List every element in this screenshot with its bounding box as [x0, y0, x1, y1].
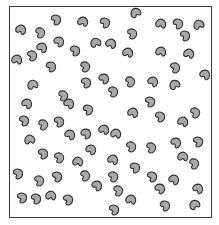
bean-icon: [90, 179, 104, 193]
bean-icon: [129, 6, 143, 20]
bean-icon: [143, 95, 157, 109]
bean-icon: [36, 147, 50, 161]
bean-icon: [61, 193, 75, 207]
bean-icon: [81, 103, 94, 116]
bean-icon: [50, 170, 64, 184]
bean-icon: [145, 170, 159, 184]
bean-icon: [158, 199, 171, 212]
bean-icon: [68, 44, 82, 58]
bean-icon: [153, 182, 167, 196]
bean-icon: [169, 136, 183, 150]
bean-icon: [97, 72, 111, 86]
bean-icon: [178, 29, 192, 43]
bean-icon: [98, 16, 111, 29]
bean-icon: [153, 110, 167, 124]
bean-icon: [107, 203, 121, 217]
bean-icon: [11, 167, 25, 181]
bean-icon: [52, 35, 66, 49]
bean-icon: [188, 198, 202, 212]
bean-icon: [79, 127, 93, 141]
bean-icon: [128, 161, 141, 174]
bean-icon: [191, 135, 205, 149]
bean-icon: [79, 76, 93, 90]
bean-icon: [17, 114, 31, 128]
bean-icon: [15, 191, 29, 205]
bean-icon: [44, 60, 57, 73]
bean-icon: [168, 78, 182, 92]
bean-icon: [29, 192, 43, 206]
bean-icon: [52, 115, 66, 129]
bean-icon: [49, 13, 63, 27]
